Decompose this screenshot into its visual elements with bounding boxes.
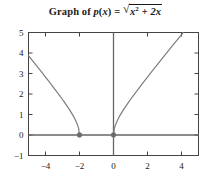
y-tick-labels: −1012345 [14,28,24,161]
y-tick-label: 4 [19,48,24,58]
curve-right-branch [114,33,184,136]
y-tick-label: 2 [19,89,24,99]
y-tick-label: 3 [19,69,24,79]
x-tick-label: 4 [179,161,184,171]
x-tick-labels: −4−2024 [41,161,185,171]
x-tick-label: −2 [75,161,85,171]
x-tick-label: 2 [145,161,150,171]
y-tick-label: 5 [19,28,24,38]
chart-figure: Graph of p(x) = √x2 + 2x −4−2024 −101234… [0,0,211,179]
x-tick-label: 0 [111,161,116,171]
endpoint-marker [111,133,116,138]
curve-left-branch [29,56,80,135]
x-tick-label: −4 [41,161,51,171]
y-tick-label: 0 [19,130,24,140]
y-tick-label: 1 [19,110,24,120]
y-tick-label: −1 [14,151,24,161]
endpoint-marker [77,133,82,138]
plot-area: −4−2024 −1012345 [0,0,211,179]
curve-series [29,33,184,136]
